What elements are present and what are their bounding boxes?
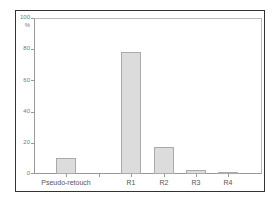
- bar-r1: [121, 52, 141, 174]
- plot-area: [34, 18, 262, 174]
- x-tickmark: [131, 174, 132, 177]
- x-tickmark: [99, 174, 100, 177]
- x-label-r4: R4: [213, 179, 243, 186]
- y-tickmark: [31, 80, 34, 81]
- y-tick-60: 60: [16, 77, 30, 83]
- y-tick-20: 20: [16, 139, 30, 145]
- x-tickmark: [196, 174, 197, 177]
- x-tickmark: [164, 174, 165, 177]
- y-tickmark: [31, 143, 34, 144]
- y-tick-40: 40: [16, 108, 30, 114]
- y-tick-80: 80: [16, 45, 30, 51]
- y-tick-100: 100: [16, 14, 30, 20]
- x-tickmark: [228, 174, 229, 177]
- bar-r2: [154, 147, 174, 174]
- x-tickmark: [66, 174, 67, 177]
- y-tick-0: 0: [16, 170, 30, 176]
- y-tickmark: [31, 173, 34, 174]
- x-label-pseudo-retouch: Pseudo-retouch: [36, 179, 96, 186]
- y-axis-unit: %: [16, 22, 30, 28]
- y-tickmark: [31, 49, 34, 50]
- x-label-r1: R1: [116, 179, 146, 186]
- bar-pseudo-retouch: [56, 158, 76, 174]
- x-label-r3: R3: [181, 179, 211, 186]
- y-tickmark: [31, 18, 34, 19]
- y-tickmark: [31, 112, 34, 113]
- x-label-r2: R2: [149, 179, 179, 186]
